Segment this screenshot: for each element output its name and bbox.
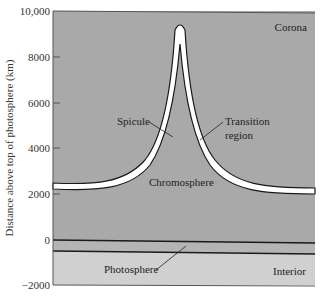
y-axis-title: Distance above top of photosphere (km) — [3, 59, 16, 236]
solar-atmosphere-diagram: 10,000 8000 6000 4000 2000 0 −2000 Dista… — [0, 0, 320, 298]
label-transition-line1: Transition — [225, 115, 270, 127]
label-interior: Interior — [273, 265, 306, 277]
tick-8000: 8000 — [28, 51, 51, 63]
label-spicule: Spicule — [117, 115, 150, 127]
label-photosphere: Photosphere — [104, 263, 159, 275]
tick-0: 0 — [45, 234, 51, 246]
label-corona: Corona — [275, 21, 308, 33]
tick-4000: 4000 — [28, 142, 51, 154]
frame-bottom — [53, 285, 315, 286]
tick-minus-2000: −2000 — [22, 279, 51, 291]
tick-10000: 10,000 — [20, 5, 51, 17]
tick-6000: 6000 — [28, 97, 51, 109]
label-chromosphere: Chromosphere — [149, 176, 214, 188]
tick-2000: 2000 — [28, 188, 51, 200]
label-transition-line2: region — [225, 129, 254, 141]
